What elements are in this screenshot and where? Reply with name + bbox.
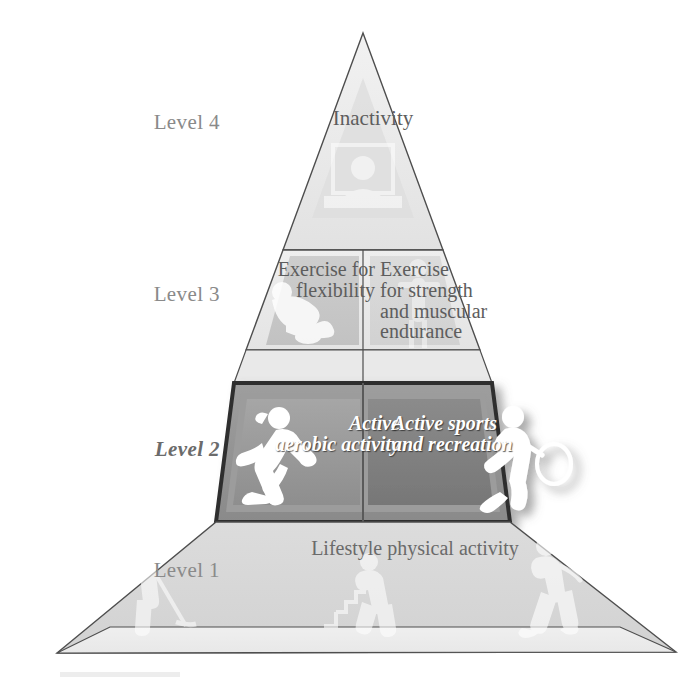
panel-label-inactivity: Inactivity [318,108,428,130]
level-4-label: Level 4 [100,110,220,135]
level-3-label: Level 3 [100,282,220,307]
level-1-label: Level 1 [100,558,220,583]
level-2-label: Level 2 [100,437,220,462]
caption-cropped [60,672,180,677]
panel-label-active-aerobic: Active aerobic activity [250,413,400,455]
panel-label-exercise-flexibility: Exercise for flexibility [245,259,375,301]
panel-label-lifestyle: Lifestyle physical activity [295,538,535,559]
tier-level4 [283,33,443,250]
panel-label-exercise-strength: Exercise for strength and muscular endur… [380,259,530,342]
pyramid-diagram: Level 4 Level 3 Level 2 Level 1 Inactivi… [0,0,696,677]
panel-label-active-sports: Active sports and recreation [392,413,562,455]
